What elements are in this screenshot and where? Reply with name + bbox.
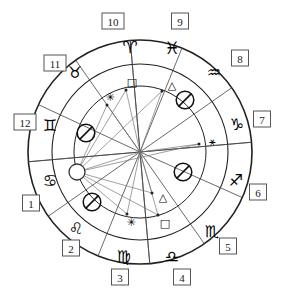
aspect-marker-sextile-upper: ✳ <box>105 91 114 104</box>
planet-slash <box>177 166 190 179</box>
aspect-marker-square-lower: □ <box>160 217 170 230</box>
house-number-label: 3 <box>117 272 123 284</box>
house-number-6: 6 <box>250 184 267 200</box>
aspect-endpoint-dot-square-upper <box>125 89 128 92</box>
ascendant-layer <box>69 164 85 180</box>
aspect-line-group <box>77 90 199 215</box>
house-cusp-line-2 <box>48 190 86 216</box>
zodiac-sign-libra: ♎ <box>165 247 179 266</box>
inner-spoke-12 <box>80 124 140 152</box>
aspect-line-asc-6 <box>77 144 199 172</box>
house-number-label: 9 <box>177 16 183 28</box>
zodiac-sign-aries: ♈ <box>122 37 137 57</box>
inner-spoke-8 <box>140 114 194 152</box>
natal-chart-container: ♈♓♒♑♐♏♎♍♌♋♊♉ □✳△△□✳⚹ 123456789101112 <box>0 0 281 301</box>
house-number-9: 9 <box>172 13 189 29</box>
aspect-endpoint-dot-trine-lower <box>151 192 154 195</box>
house-number-label: 10 <box>108 16 120 28</box>
house-number-label: 7 <box>259 114 265 126</box>
aspect-marker-sextile-lower: ✳ <box>126 216 135 229</box>
inner-spoke-10 <box>134 86 140 152</box>
planet-marker-layer <box>77 91 194 211</box>
aspect-marker-trine-lower: △ <box>159 191 168 204</box>
zodiac-sign-aquarius: ♒ <box>207 63 221 82</box>
house-cusp-line-5 <box>178 206 204 244</box>
planet-marker-lower-right <box>174 163 192 181</box>
house-number-10: 10 <box>102 13 124 29</box>
inner-spoke-3 <box>115 152 140 213</box>
zodiac-sign-gemini: ♊ <box>43 116 57 135</box>
aspect-endpoint-dot-sextile-upper <box>106 104 109 107</box>
house-number-label: 1 <box>28 198 34 210</box>
zodiac-sign-sagittarius: ♐ <box>229 171 243 190</box>
house-number-3: 3 <box>112 269 129 285</box>
aspect-endpoint-dot-trine-upper <box>161 90 164 93</box>
house-number-label: 2 <box>68 243 74 255</box>
aspect-line-center-2 <box>140 91 162 152</box>
ascendant-body <box>69 164 85 180</box>
planet-marker-upper-right <box>176 91 194 109</box>
planet-marker-lower-left <box>83 193 101 211</box>
zodiac-sign-leo: ♌ <box>69 219 83 238</box>
zodiac-sign-scorpio: ♏ <box>205 222 219 241</box>
aspect-endpoint-dot-square-lower <box>157 214 160 217</box>
zodiac-sign-cancer: ♋ <box>43 171 57 190</box>
house-number-12: 12 <box>14 114 36 130</box>
house-number-label: 8 <box>237 53 243 65</box>
aspect-marker-trine-upper: △ <box>168 79 177 92</box>
natal-chart-wheel: ♈♓♒♑♐♏♎♍♌♋♊♉ □✳△△□✳⚹ 123456789101112 <box>0 0 281 301</box>
aspect-line-asc-2 <box>77 91 162 172</box>
aspect-marker-node-right: ⚹ <box>209 135 216 148</box>
house-cusp-line-8 <box>194 88 232 114</box>
house-number-label: 5 <box>225 241 231 253</box>
house-cusp-line-3 <box>98 213 115 256</box>
inner-spoke-2 <box>86 152 140 190</box>
house-number-label: 11 <box>50 58 61 70</box>
house-number-1: 1 <box>23 195 40 211</box>
house-number-8: 8 <box>232 50 249 66</box>
aspect-endpoint-dot-node-right <box>198 143 201 146</box>
planet-slash <box>80 127 93 140</box>
inner-spoke-7 <box>140 146 206 152</box>
zodiac-sign-taurus: ♉ <box>68 63 82 82</box>
aspect-marker-square-upper: □ <box>127 76 137 89</box>
house-number-2: 2 <box>63 240 80 256</box>
zodiac-sign-virgo: ♍ <box>117 247 131 266</box>
house-number-7: 7 <box>254 111 271 127</box>
zodiac-sign-pisces: ♓ <box>164 38 179 58</box>
house-number-label: 4 <box>179 272 185 284</box>
house-number-11: 11 <box>44 55 66 71</box>
aspect-line-asc-3 <box>77 172 152 193</box>
aspect-endpoint-dot-sextile-lower <box>126 213 129 216</box>
house-number-label: 6 <box>255 187 261 199</box>
aspect-line-asc-0 <box>77 90 126 172</box>
house-number-label: 12 <box>20 117 31 129</box>
house-number-4: 4 <box>174 269 191 285</box>
zodiac-sign-capricorn: ♑ <box>230 115 244 134</box>
house-number-5: 5 <box>220 238 237 254</box>
